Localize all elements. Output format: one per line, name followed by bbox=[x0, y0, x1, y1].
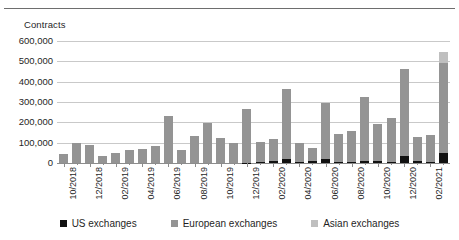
y-axis-tick-label: 300,000 bbox=[1, 96, 53, 107]
x-axis-tick bbox=[430, 163, 431, 167]
x-axis-tick-label: 04/2019 bbox=[146, 167, 156, 200]
bar-segment bbox=[85, 145, 94, 163]
y-axis-tick-label: 600,000 bbox=[1, 35, 53, 46]
bar-segment bbox=[72, 143, 81, 163]
bar-segment bbox=[125, 150, 134, 163]
legend-item[interactable]: US exchanges bbox=[60, 218, 137, 229]
y-axis-tick-label: 100,000 bbox=[1, 137, 53, 148]
bar-01-2020[interactable] bbox=[256, 142, 265, 163]
x-axis-tick-minor bbox=[365, 163, 366, 165]
bar-10-2019[interactable] bbox=[216, 138, 225, 163]
bar-segment bbox=[138, 149, 147, 163]
bar-12-2020[interactable] bbox=[400, 69, 409, 163]
bar-03-2020[interactable] bbox=[282, 89, 291, 163]
bar-09-2020[interactable] bbox=[360, 97, 369, 163]
x-axis-tick bbox=[221, 163, 222, 167]
gridline bbox=[57, 82, 450, 83]
x-axis-tick bbox=[352, 163, 353, 167]
x-axis-tick-minor bbox=[260, 163, 261, 165]
bar-11-2019[interactable] bbox=[229, 143, 238, 163]
x-axis-tick bbox=[299, 163, 300, 167]
bar-02-2020[interactable] bbox=[269, 139, 278, 163]
x-axis-tick-label: 10/2019 bbox=[225, 167, 235, 200]
y-axis-tick-label: 400,000 bbox=[1, 76, 53, 87]
bar-07-2020[interactable] bbox=[334, 134, 343, 163]
bar-segment bbox=[308, 148, 317, 162]
x-axis-tick-minor bbox=[155, 163, 156, 165]
chart-figure: Contracts 600,000500,000400,000300,00020… bbox=[0, 0, 459, 240]
bar-segment bbox=[98, 156, 107, 163]
x-axis-tick-label: 02/2019 bbox=[120, 167, 130, 200]
bar-segment bbox=[229, 143, 238, 163]
bar-02-2019[interactable] bbox=[111, 153, 120, 163]
bar-segment bbox=[190, 136, 199, 163]
x-axis-tick-label: 12/2018 bbox=[94, 167, 104, 200]
y-axis-tick-label: 500,000 bbox=[1, 55, 53, 66]
x-axis-tick-minor bbox=[129, 163, 130, 165]
bar-segment bbox=[203, 123, 212, 163]
x-axis-tick-label: 12/2020 bbox=[408, 167, 418, 200]
y-axis-tick-label: 0 bbox=[1, 157, 53, 168]
x-axis-tick bbox=[247, 163, 248, 167]
gridline bbox=[57, 41, 450, 42]
x-axis-tick-minor bbox=[417, 163, 418, 165]
bar-segment bbox=[426, 135, 435, 162]
x-axis-tick-label: 02/2021 bbox=[434, 167, 444, 200]
bar-05-2020[interactable] bbox=[308, 148, 317, 163]
bar-06-2019[interactable] bbox=[164, 116, 173, 163]
legend-item[interactable]: European exchanges bbox=[171, 218, 278, 229]
x-axis-tick bbox=[168, 163, 169, 167]
bar-segment bbox=[151, 146, 160, 163]
bar-12-2018[interactable] bbox=[85, 145, 94, 163]
chart-legend: US exchangesEuropean exchangesAsian exch… bbox=[0, 218, 459, 229]
legend-swatch-icon bbox=[60, 220, 67, 227]
x-axis-tick-label: 08/2019 bbox=[199, 167, 209, 200]
bar-06-2020[interactable] bbox=[321, 103, 330, 163]
bar-05-2019[interactable] bbox=[151, 146, 160, 163]
bar-01-2021[interactable] bbox=[413, 137, 422, 163]
legend-label: Asian exchanges bbox=[323, 218, 399, 229]
x-axis-tick-minor bbox=[208, 163, 209, 165]
bar-08-2020[interactable] bbox=[347, 131, 356, 163]
x-axis-tick bbox=[326, 163, 327, 167]
bar-03-2019[interactable] bbox=[125, 150, 134, 163]
x-axis-tick-minor bbox=[234, 163, 235, 165]
bar-04-2019[interactable] bbox=[138, 149, 147, 163]
bar-11-2018[interactable] bbox=[72, 143, 81, 163]
bar-10-2018[interactable] bbox=[59, 154, 68, 163]
bar-09-2019[interactable] bbox=[203, 123, 212, 163]
x-axis-tick bbox=[64, 163, 65, 167]
y-axis: 600,000500,000400,000300,000200,000100,0… bbox=[0, 41, 53, 163]
y-axis-tick-label: 200,000 bbox=[1, 116, 53, 127]
x-axis-tick-label: 06/2020 bbox=[330, 167, 340, 200]
bar-segment bbox=[347, 131, 356, 162]
x-axis-tick-label: 02/2020 bbox=[277, 167, 287, 200]
bar-12-2019[interactable] bbox=[242, 109, 251, 163]
gridline bbox=[57, 102, 450, 103]
bar-03-2021[interactable] bbox=[439, 52, 448, 163]
bar-01-2019[interactable] bbox=[98, 156, 107, 163]
bar-segment bbox=[439, 52, 448, 64]
y-axis-title: Contracts bbox=[24, 19, 66, 30]
legend-label: European exchanges bbox=[183, 218, 278, 229]
bar-11-2020[interactable] bbox=[387, 118, 396, 163]
x-axis-tick bbox=[142, 163, 143, 167]
x-axis-tick bbox=[378, 163, 379, 167]
x-axis-tick-label: 10/2020 bbox=[382, 167, 392, 200]
bar-10-2020[interactable] bbox=[373, 124, 382, 163]
legend-item[interactable]: Asian exchanges bbox=[311, 218, 399, 229]
bar-segment bbox=[177, 150, 186, 163]
x-axis-tick-label: 06/2019 bbox=[172, 167, 182, 200]
x-axis-tick-minor bbox=[443, 163, 444, 165]
bar-segment bbox=[216, 138, 225, 163]
x-axis-tick-minor bbox=[391, 163, 392, 165]
bar-08-2019[interactable] bbox=[190, 136, 199, 163]
bar-07-2019[interactable] bbox=[177, 150, 186, 163]
bar-04-2020[interactable] bbox=[295, 143, 304, 163]
x-axis-tick bbox=[404, 163, 405, 167]
bar-02-2021[interactable] bbox=[426, 135, 435, 163]
bar-segment bbox=[59, 154, 68, 163]
bar-segment bbox=[282, 89, 291, 159]
x-axis-tick bbox=[195, 163, 196, 167]
x-axis-tick-minor bbox=[181, 163, 182, 165]
